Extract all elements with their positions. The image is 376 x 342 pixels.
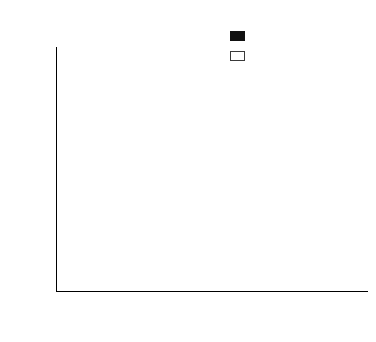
legend-item-male: [230, 27, 360, 44]
bars-layer: [56, 48, 368, 291]
bar-chart: [0, 0, 376, 342]
legend-swatch-male-icon: [230, 31, 245, 41]
legend-swatch-female-icon: [230, 51, 245, 61]
x-axis-line: [56, 291, 368, 292]
legend: [230, 27, 360, 67]
legend-item-female: [230, 47, 360, 64]
